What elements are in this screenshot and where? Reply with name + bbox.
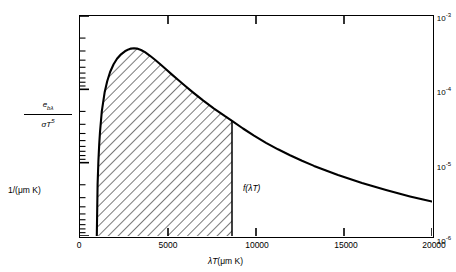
y-axis-label-denominator: σT5 [24,115,72,130]
y-tick-mantissa: 10 [437,163,446,172]
x-tick-label: 10000 [235,241,279,250]
y-axis-label-numerator: ebλ [24,100,72,114]
x-tick-label: 0 [59,241,99,250]
y-axis-ticks [80,16,89,236]
plot-area [79,15,434,238]
x-tick-label: 15000 [324,241,368,250]
x-tick-label: 20000 [412,241,456,250]
y-axis-label: ebλ σT5 [24,100,72,129]
x-axis-label: λT(μm K) [0,256,451,266]
x-axis-label-symbol: λT [208,256,217,266]
y-tick-mantissa: 10 [437,14,446,23]
shaded-area-annotation: f(λT) [243,183,260,193]
x-axis-label-units: (μm K) [217,256,243,266]
y-axis-units-label: 1/(μm K) [8,185,41,195]
y-tick-exponent: -5 [446,161,451,167]
y-tick-mantissa: 10 [437,88,446,97]
plot-svg [80,16,432,236]
x-axis-ticks-top [168,16,344,24]
y-tick-exponent: -4 [446,86,451,92]
y-tick-exponent: -3 [446,12,451,18]
x-tick-label: 5000 [148,241,188,250]
